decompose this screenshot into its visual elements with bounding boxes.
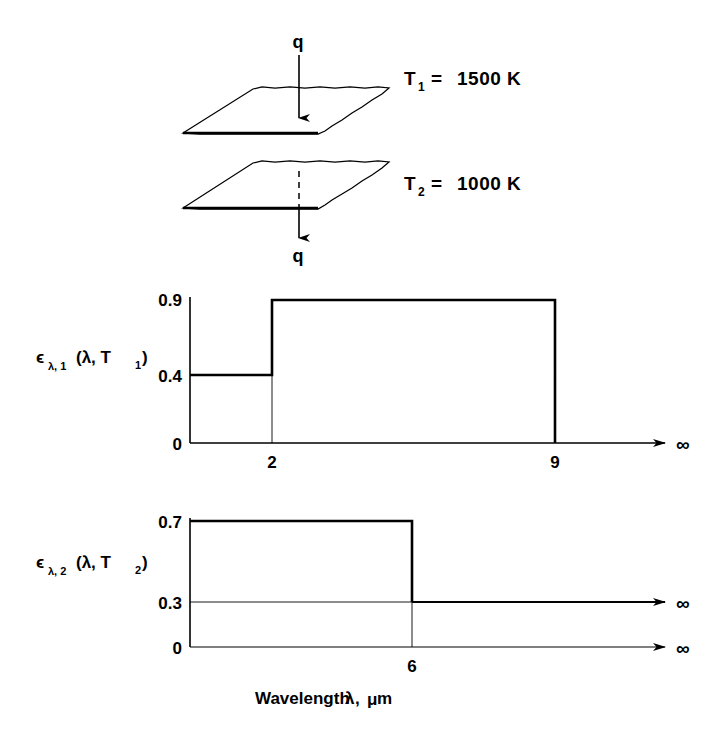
chart-2-ylabel-arg-subscript: 2	[135, 564, 141, 576]
chart-1-ylabel-epsilon: ϵ	[36, 348, 44, 367]
chart-2-ytick-2: 0	[173, 639, 182, 658]
plate-2-surface	[183, 161, 389, 209]
x-axis-title-separator: ,	[355, 689, 360, 708]
chart-1-ylabel-subscript: λ, 1	[48, 360, 66, 372]
plate-2-temp-subscript: 2	[418, 185, 425, 199]
plates-schematic: q T 1 = 1500 K q	[183, 32, 521, 266]
plate-1-temp-symbol: T	[404, 68, 416, 89]
x-axis-title-unit: m	[377, 689, 392, 708]
chart-2-ytick-0: 0.7	[158, 513, 182, 532]
figure-root: q T 1 = 1500 K q	[0, 0, 720, 739]
chart-1-step-curve	[190, 300, 555, 443]
chart-1-ytick-0: 0.9	[158, 291, 182, 310]
flux-label-top: q	[293, 32, 304, 52]
plate-2-temperature-label: T 2 = 1000 K	[404, 173, 521, 199]
x-axis-title-mu: μ	[367, 690, 377, 709]
chart-1-xtick-0: 2	[267, 453, 276, 472]
x-axis-title-prefix: Wavelength	[255, 689, 350, 708]
x-axis-title-lambda: λ	[345, 689, 355, 708]
plate-2-equals: =	[431, 173, 443, 194]
chart-1-xtick-1: 9	[550, 453, 559, 472]
x-axis-title: Wavelength λ , μ m	[255, 689, 392, 709]
chart-2-ylabel-epsilon: ϵ	[36, 553, 44, 572]
plate-1-surface	[183, 87, 389, 134]
chart-2-infinity-symbol-lower: ∞	[676, 638, 690, 659]
chart-1-ylabel-args: (λ, T	[76, 348, 112, 367]
plate-1-temperature-label: T 1 = 1500 K	[404, 68, 521, 94]
chart-1-y-axis-label: ϵ λ, 1 (λ, T 1 )	[36, 348, 148, 372]
chart-2-infinity-symbol-upper: ∞	[676, 593, 690, 614]
chart-1-ylabel-arg-subscript: 1	[135, 359, 141, 371]
plate-2-temp-value: 1000 K	[457, 173, 521, 194]
chart-1-ytick-1: 0.4	[158, 367, 182, 386]
plate-1-equals: =	[431, 68, 443, 89]
chart-2-xtick-0: 6	[407, 657, 416, 676]
chart-1-infinity-symbol: ∞	[676, 434, 690, 455]
chart-2-y-axis-label: ϵ λ, 2 (λ, T 2 )	[36, 553, 148, 577]
plate-2	[183, 161, 389, 209]
plate-1-temp-subscript: 1	[418, 80, 425, 94]
chart-emissivity-plate-1: 0.9 0.4 0 2 9 ∞ ϵ λ, 1 (λ, T 1 )	[36, 291, 690, 472]
plate-1-temp-value: 1500 K	[457, 68, 521, 89]
chart-emissivity-plate-2: 0.7 0.3 0 6 ∞ ∞ ϵ λ, 2 (λ, T 2 )	[36, 513, 690, 676]
chart-2-ylabel-subscript: λ, 2	[48, 565, 66, 577]
plate-1	[183, 87, 389, 134]
chart-2-ylabel-args: (λ, T	[76, 553, 112, 572]
flux-label-bottom: q	[293, 246, 304, 266]
chart-2-ylabel-close: )	[142, 553, 148, 572]
chart-1-ytick-2: 0	[173, 435, 182, 454]
chart-2-ytick-1: 0.3	[158, 594, 182, 613]
chart-2-step-curve	[190, 521, 412, 602]
figure-canvas: q T 1 = 1500 K q	[0, 0, 720, 739]
chart-1-ylabel-close: )	[142, 348, 148, 367]
plate-2-temp-symbol: T	[404, 173, 416, 194]
